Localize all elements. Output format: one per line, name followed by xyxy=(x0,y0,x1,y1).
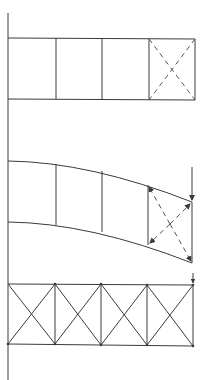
dashed-diagonal-arrow xyxy=(150,224,170,243)
bent-bottom-chord xyxy=(8,222,192,263)
beam-undeformed xyxy=(8,38,195,100)
beam-deformed xyxy=(8,161,192,263)
dashed-diagonal-arrow xyxy=(170,204,190,224)
structural-diagram xyxy=(0,0,201,380)
truss xyxy=(7,273,195,347)
bent-top-chord xyxy=(8,161,192,202)
beam-bottom-chord xyxy=(8,99,195,100)
